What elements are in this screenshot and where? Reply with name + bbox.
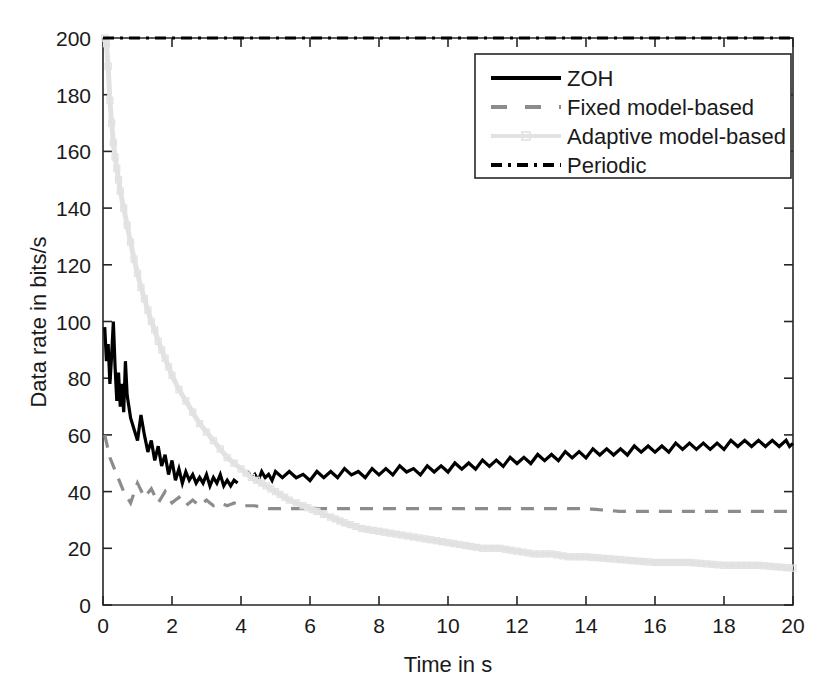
chart-figure: 02468101214161820 0204060801001201401601… (0, 0, 836, 695)
x-tick-label: 18 (712, 614, 735, 637)
y-tick-label: 200 (56, 27, 91, 50)
y-tick-label: 80 (68, 367, 91, 390)
x-tick-label: 0 (97, 614, 109, 637)
x-axis-title: Time in s (404, 652, 492, 677)
y-tick-label: 100 (56, 311, 91, 334)
y-tick-label: 0 (79, 594, 91, 617)
data-rate-line-chart: 02468101214161820 0204060801001201401601… (0, 0, 836, 695)
chart-legend: ZOHFixed model-basedAdaptive model-based… (475, 54, 791, 178)
legend-label: Periodic (567, 153, 646, 178)
y-tick-label: 160 (56, 140, 91, 163)
x-tick-label: 10 (436, 614, 459, 637)
x-tick-label: 6 (304, 614, 316, 637)
y-axis-title: Data rate in bits/s (26, 236, 51, 407)
x-tick-label: 4 (235, 614, 247, 637)
y-tick-label: 180 (56, 84, 91, 107)
y-tick-label: 60 (68, 424, 91, 447)
y-tick-label: 120 (56, 254, 91, 277)
x-tick-label: 2 (166, 614, 178, 637)
x-tick-label: 14 (574, 614, 598, 637)
x-tick-label: 8 (373, 614, 385, 637)
x-tick-label: 20 (781, 614, 804, 637)
legend-label: Adaptive model-based (567, 124, 786, 149)
legend-label: Fixed model-based (567, 95, 754, 120)
x-tick-label: 16 (643, 614, 666, 637)
y-tick-label: 140 (56, 197, 91, 220)
y-tick-label: 20 (68, 537, 91, 560)
legend-label: ZOH (567, 66, 613, 91)
x-tick-label: 12 (505, 614, 528, 637)
y-tick-label: 40 (68, 481, 91, 504)
